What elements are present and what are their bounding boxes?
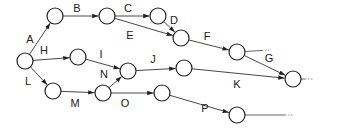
node-n13	[229, 107, 245, 123]
edge-label-f: F	[204, 30, 211, 42]
edge-label-p: P	[201, 102, 208, 114]
node-n6	[70, 49, 86, 65]
edge-label-n: N	[100, 68, 108, 80]
edge-label-i: I	[99, 48, 102, 60]
node-n7	[120, 63, 136, 79]
node-n9	[285, 71, 301, 87]
node-n3	[150, 8, 166, 24]
edge-label-c: C	[124, 2, 132, 14]
edge-label-e: E	[126, 29, 133, 41]
node-n5	[229, 44, 245, 60]
edge-label-a: A	[26, 33, 34, 45]
edge-label-b: B	[73, 2, 80, 14]
edge-n	[109, 77, 122, 88]
node-n4	[173, 30, 189, 46]
edge-m	[61, 91, 95, 92]
node-n11	[95, 85, 111, 101]
edge-label-h: H	[40, 44, 48, 56]
activity-network-diagram: ABCDEFGHIJKLMNOP	[0, 0, 341, 131]
continuation-line	[245, 50, 262, 51]
node-n10	[45, 83, 61, 99]
edge-p	[170, 95, 229, 112]
edge-label-j: J	[150, 53, 156, 65]
edge-label-o: O	[121, 97, 130, 109]
edge-h	[33, 58, 70, 61]
edge-label-g: G	[265, 52, 274, 64]
edge-l	[30, 67, 47, 85]
node-n2	[99, 8, 115, 24]
edge-label-k: K	[233, 78, 241, 90]
edge-label-d: D	[170, 14, 178, 26]
node-n12	[154, 85, 170, 101]
edge-k	[192, 69, 285, 78]
node-n8	[176, 60, 192, 76]
node-n1	[47, 8, 63, 24]
edge-j	[136, 68, 176, 70]
node-n0	[17, 53, 33, 69]
edge-label-m: M	[70, 97, 79, 109]
edge-label-l: L	[25, 75, 31, 87]
